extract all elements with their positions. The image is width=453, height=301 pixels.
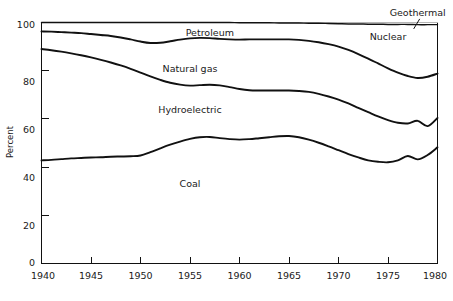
annotation-label-geothermal: Geothermal bbox=[390, 7, 446, 18]
y-tick-label-60: 60 bbox=[23, 124, 35, 135]
y-tick-label-80: 80 bbox=[23, 76, 35, 87]
series-boundary-coal bbox=[42, 136, 438, 162]
y-axis-title: Percent bbox=[5, 125, 15, 158]
x-tick-label-1945: 1945 bbox=[79, 270, 103, 281]
x-tick-label-1975: 1975 bbox=[376, 270, 400, 281]
y-tick-label-20: 20 bbox=[23, 220, 35, 231]
energy-share-chart: Percent 0 20 40 60 80 100 1940 1945 1950… bbox=[0, 0, 453, 301]
band-label-hydroelectric: Hydroelectric bbox=[158, 104, 221, 115]
band-label-natural-gas: Natural gas bbox=[163, 63, 218, 74]
y-tick-label-40: 40 bbox=[23, 172, 35, 183]
y-tick-label-100: 100 bbox=[17, 19, 35, 30]
series-boundary-hydroelectric bbox=[42, 49, 438, 126]
geothermal-leader-line bbox=[414, 19, 420, 29]
series-curves bbox=[42, 22, 438, 162]
band-label-coal: Coal bbox=[180, 178, 201, 189]
x-tick-label-1965: 1965 bbox=[277, 270, 301, 281]
annotation-label-nuclear: Nuclear bbox=[370, 31, 407, 42]
x-tick-label-1940: 1940 bbox=[31, 270, 55, 281]
x-tick-label-1950: 1950 bbox=[128, 270, 152, 281]
x-tick-label-1955: 1955 bbox=[178, 270, 202, 281]
x-tick-label-1960: 1960 bbox=[227, 270, 251, 281]
y-tick-label-0: 0 bbox=[29, 257, 35, 268]
chart-canvas: Percent 0 20 40 60 80 100 1940 1945 1950… bbox=[0, 0, 453, 301]
x-tick-label-1970: 1970 bbox=[326, 270, 350, 281]
x-tick-label-1980: 1980 bbox=[423, 270, 447, 281]
band-label-petroleum: Petroleum bbox=[186, 27, 234, 38]
